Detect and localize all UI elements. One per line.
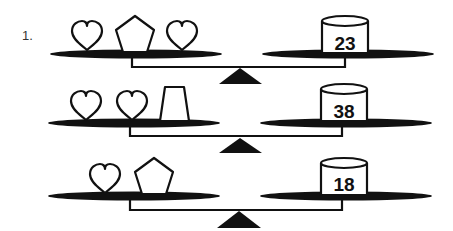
left-pan	[48, 192, 220, 201]
balance-3: 18	[48, 158, 432, 228]
heart-icon	[167, 21, 197, 50]
weight-value: 38	[333, 101, 354, 122]
heart-icon	[71, 91, 101, 120]
trapezoid-icon	[160, 87, 189, 121]
heart-icon	[72, 21, 102, 50]
balance-1: 23	[50, 16, 434, 84]
balance-2: 38	[48, 84, 432, 153]
heart-icon	[90, 164, 120, 193]
pentagon-icon	[116, 16, 154, 52]
fulcrum-icon	[219, 138, 262, 153]
balance-scales-diagram: 23 38 18	[0, 0, 453, 231]
weight-value: 18	[333, 174, 354, 195]
weight-value: 23	[334, 33, 355, 54]
fulcrum-icon	[219, 68, 262, 84]
pentagon-icon	[135, 158, 173, 194]
left-pan	[48, 119, 220, 128]
heart-icon	[117, 91, 147, 120]
fulcrum-icon	[217, 211, 261, 228]
